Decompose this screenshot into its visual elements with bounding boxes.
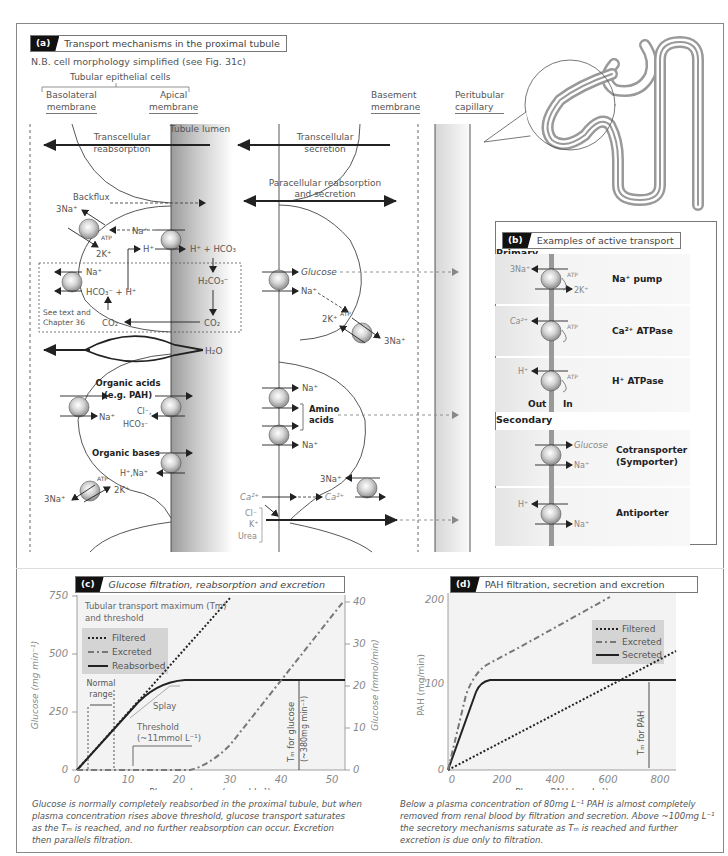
panel-c-title: Glucose filtration, reabsorption and exc… (109, 579, 325, 590)
sglt-icon (269, 270, 289, 290)
legend-reabsorbed: Reabsorbed (112, 661, 165, 671)
ion-hco3-h: HCO₃⁻ + H⁺ (86, 287, 136, 297)
ion-2k: 2K⁺ (574, 286, 589, 295)
y-right-tick: 10 (353, 722, 366, 733)
organic-bases-label: Organic bases (92, 448, 160, 458)
x-axis-label: Plasma PAH (mg L⁻¹) (515, 787, 609, 790)
label-line: Chapter 36 (43, 318, 85, 327)
ion-ca: Ca²⁺ (325, 492, 344, 502)
ion-hco3: HCO₃⁻ (123, 420, 148, 429)
y-tick: 0 (438, 764, 444, 775)
atp-label: ATP (567, 373, 578, 380)
ion-na: Na⁺ (132, 226, 148, 236)
y-tick: 0 (62, 764, 68, 775)
tm-glucose-label: Tₘ for glucose (286, 702, 296, 763)
ion-2k: 2K⁺ (322, 314, 337, 324)
threshold-label: Threshold (136, 722, 179, 732)
antiporter-label: Antiporter (616, 508, 669, 518)
y-tick: 750 (49, 590, 68, 601)
ion-2k: 2K⁺ (96, 249, 111, 259)
caption-line: plasma concentration rises above thresho… (32, 810, 372, 822)
amino-acid-transporter-icon (269, 388, 289, 408)
atp-label: ATP (567, 271, 578, 278)
x-tick: 600 (598, 774, 617, 785)
x-tick: 400 (545, 774, 564, 785)
tm-pah-label: Tₘ for PAH (636, 711, 646, 756)
y-right-axis-label: Glucose (mmol/min) (370, 639, 380, 730)
divider (16, 568, 724, 569)
ion-na: Na⁺ (574, 520, 589, 529)
symporter-label: (Symporter) (616, 457, 678, 467)
organic-acids-label: Organic acids (95, 378, 160, 388)
caption-line: Below a plasma concentration of 80mg L⁻¹… (400, 798, 720, 810)
in-label: In (563, 399, 573, 409)
glucose-chart: 0 250 500 750 0 10 20 30 40 0 10 20 30 4… (20, 590, 380, 790)
ion-co2: CO₂ (102, 318, 118, 328)
caption-line: removed from renal blood by filtration a… (400, 810, 720, 822)
x-tick: 0 (449, 774, 455, 785)
chart-subtitle: Tubular transport maximum (Tm) (84, 601, 226, 611)
label-line: (e.g. PAH) (104, 390, 152, 400)
h-atpase-label: H⁺ ATPase (612, 376, 664, 386)
normal-range-label: range (89, 690, 112, 699)
ion-3na: 3Na⁺ (56, 204, 77, 214)
ion-na: Na⁺ (301, 286, 317, 296)
caption-line: Glucose is normally completely reabsorbe… (32, 798, 372, 810)
label-line: reabsorption (93, 144, 150, 154)
ion-h2co3: H₂CO₃⁻ (198, 276, 228, 286)
h-atpase-icon (541, 371, 561, 391)
x-tick: 10 (122, 774, 135, 785)
y-tick: 250 (49, 706, 68, 717)
splay-label: Splay (153, 701, 176, 711)
y-axis-label: PAH (mg/min) (416, 654, 426, 716)
ion-cl: Cl⁻ (245, 509, 257, 518)
h2o-label: H₂O (205, 346, 222, 356)
y-right-tick: 20 (353, 680, 366, 691)
label-line: acids (309, 415, 334, 425)
atp-label: ATP (97, 475, 108, 482)
panel-c-caption: Glucose is normally completely reabsorbe… (32, 798, 372, 846)
ion-h-na: H⁺,Na⁺ (120, 469, 148, 478)
out-label: Out (528, 399, 547, 409)
ion-h-hco3: H⁺ + HCO₃ (190, 244, 236, 254)
ion-h: H⁺ (518, 500, 528, 509)
caption-line: excretion is due only to filtration. (400, 834, 720, 846)
x-tick: 40 (275, 774, 288, 785)
y-tick: 500 (49, 648, 68, 659)
ion-3na: 3Na⁺ (320, 474, 341, 484)
glucose-label: Glucose (301, 267, 337, 277)
ion-3na: 3Na⁺ (510, 265, 530, 274)
pah-chart: 0 100 200 0 200 400 600 800 Plasma PAH (… (380, 585, 728, 790)
tubule-lumen-label: Tubule lumen (169, 124, 230, 134)
ion-h: H⁺ (143, 244, 154, 254)
na-k-pump-icon (80, 481, 100, 501)
ion-3na: 3Na⁺ (384, 336, 405, 346)
panel-d-caption: Below a plasma concentration of 80mg L⁻¹… (400, 798, 720, 846)
x-tick: 30 (224, 774, 237, 785)
ion-ca: Ca²⁺ (510, 317, 528, 326)
ion-3na: 3Na⁺ (44, 494, 65, 504)
ion-cl: Cl⁻, (137, 407, 152, 416)
na-k-pump-icon (79, 219, 99, 239)
y-tick: 100 (425, 678, 444, 689)
ion-na: Na⁺ (99, 412, 115, 422)
na-pump-label: Na⁺ pump (612, 274, 663, 284)
x-axis-label: Plasma glucose (mmol L⁻¹) (149, 787, 271, 790)
ion-h: H⁺ (518, 367, 528, 376)
caption-line: then parallels filtration. (32, 834, 372, 846)
atp-label: ATP (101, 234, 112, 241)
legend-excreted: Excreted (622, 637, 662, 647)
nephron-illustration (484, 42, 698, 205)
y-right-tick: 40 (353, 596, 366, 607)
x-tick: 20 (173, 774, 186, 785)
legend-filtered: Filtered (622, 624, 655, 634)
na-h-exchanger-icon (161, 230, 181, 250)
ion-ca: Ca²⁺ (240, 492, 259, 502)
y-axis-label: Glucose (mg min⁻¹) (30, 641, 40, 729)
chart-subtitle: and threshold (85, 613, 144, 623)
label-line: and secretion (294, 189, 355, 199)
oat-apical-icon (161, 397, 181, 417)
y-right-tick: 0 (353, 764, 359, 775)
x-tick: 800 (650, 774, 669, 785)
ion-co2: CO₂ (204, 318, 220, 328)
